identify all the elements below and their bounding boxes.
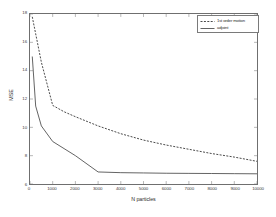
x-tick-label: 4000 bbox=[116, 187, 125, 191]
series-line bbox=[32, 17, 257, 162]
legend-line-sample bbox=[200, 26, 215, 31]
legend-item: adjoint bbox=[200, 26, 256, 32]
legend-label: adjoint bbox=[217, 26, 228, 30]
series-line bbox=[32, 57, 257, 174]
chart-figure: 681012141618 010002000300040005000600070… bbox=[0, 0, 276, 217]
data-series-group bbox=[32, 17, 257, 174]
chart-legend: 1st order motionadjoint bbox=[197, 15, 259, 33]
x-tick-label: 8000 bbox=[208, 187, 217, 191]
x-tick-label: 6000 bbox=[162, 187, 171, 191]
x-tick-label: 7000 bbox=[185, 187, 194, 191]
y-tick-label: 16 bbox=[22, 39, 27, 43]
legend-label: 1st order motion bbox=[217, 19, 245, 23]
x-tick-label: 2000 bbox=[70, 187, 79, 191]
y-tick-label: 10 bbox=[22, 125, 27, 129]
y-tick-label: 14 bbox=[22, 68, 27, 72]
y-tick-label: 6 bbox=[25, 183, 27, 187]
x-axis-title: N particles bbox=[29, 196, 258, 202]
x-tick-label: 10000 bbox=[252, 187, 264, 191]
y-tick-label: 8 bbox=[25, 154, 27, 158]
y-axis-tick-labels: 681012141618 bbox=[14, 13, 27, 185]
x-tick-label: 3000 bbox=[93, 187, 102, 191]
x-tick-label: 1000 bbox=[47, 187, 56, 191]
x-tick-label: 0 bbox=[28, 187, 30, 191]
y-tick-label: 18 bbox=[22, 11, 27, 15]
x-tick-label: 5000 bbox=[139, 187, 148, 191]
legend-item: 1st order motion bbox=[200, 19, 256, 25]
y-tick-label: 12 bbox=[22, 97, 27, 101]
x-tick-label: 9000 bbox=[230, 187, 239, 191]
axis-tick-marks bbox=[30, 14, 257, 184]
y-axis-title: MSE bbox=[8, 78, 14, 112]
plot-svg bbox=[30, 14, 257, 184]
x-axis-tick-labels: 0100020003000400050006000700080009000100… bbox=[29, 187, 258, 195]
legend-line-sample bbox=[200, 19, 215, 24]
plot-area bbox=[29, 13, 258, 185]
